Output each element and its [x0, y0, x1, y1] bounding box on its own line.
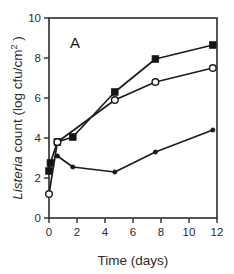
x-tick-label: 8	[158, 226, 164, 238]
marker-open-circle	[112, 97, 119, 104]
x-tick-label: 2	[74, 226, 80, 238]
y-axis-title: Listeria count (log cfu/cm2 )	[9, 36, 25, 199]
x-tick-label: 12	[211, 226, 224, 238]
marker-filled-circle	[211, 128, 215, 132]
chart-figure: 0246810 024681012 A Time (days) Listeria…	[0, 0, 234, 274]
x-tick-label: 0	[46, 226, 52, 238]
marker-filled-square	[70, 134, 77, 141]
marker-open-circle	[54, 139, 61, 146]
x-axis: 024681012	[46, 218, 224, 238]
marker-filled-circle	[113, 170, 117, 174]
x-tick-label: 6	[130, 226, 136, 238]
y-tick-label: 0	[35, 212, 41, 224]
series-filled-square	[46, 42, 216, 175]
marker-filled-square	[46, 168, 53, 175]
series-line	[49, 45, 213, 171]
series-open-circle	[46, 65, 216, 198]
svg-text:Listeria count (log cfu/cm2 ): Listeria count (log cfu/cm2 )	[9, 36, 25, 199]
series-small-filled-circle	[55, 128, 215, 174]
chart-svg: 0246810 024681012 A Time (days) Listeria…	[0, 0, 234, 274]
x-tick-label: 10	[183, 226, 196, 238]
marker-filled-square	[47, 160, 54, 167]
marker-filled-circle	[55, 154, 59, 158]
y-tick-label: 8	[35, 52, 41, 64]
y-tick-label: 4	[35, 132, 42, 144]
y-tick-label: 10	[28, 12, 41, 24]
y-tick-label: 6	[35, 92, 41, 104]
marker-open-circle	[46, 191, 53, 198]
marker-open-circle	[210, 65, 217, 72]
marker-filled-square	[210, 42, 217, 49]
data-series-layer	[46, 42, 216, 198]
x-axis-title: Time (days)	[98, 253, 169, 268]
panel-label: A	[70, 34, 80, 51]
marker-filled-square	[112, 89, 119, 96]
marker-filled-square	[152, 56, 159, 63]
x-tick-label: 4	[102, 226, 109, 238]
marker-filled-circle	[153, 150, 157, 154]
y-tick-label: 2	[35, 172, 41, 184]
series-line	[57, 130, 212, 172]
marker-open-circle	[152, 79, 159, 86]
marker-filled-circle	[71, 165, 75, 169]
series-line	[49, 68, 213, 194]
